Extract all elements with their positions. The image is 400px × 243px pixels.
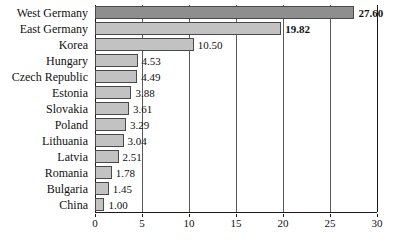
x-axis-ticks: 051015202530 [95, 214, 377, 234]
x-tick-label: 20 [278, 217, 289, 229]
bar-value-label: 3.29 [126, 117, 149, 133]
bar [95, 6, 354, 19]
category-label: Latvia [0, 149, 91, 165]
bar-value-label: 10.50 [194, 37, 223, 53]
bar [95, 38, 194, 51]
bar-value-label: 2.51 [119, 149, 142, 165]
bar-row: 3.29 [95, 117, 377, 133]
bar-row: 3.88 [95, 85, 377, 101]
bar [95, 70, 137, 83]
bar-value-label: 19.82 [281, 21, 310, 37]
bar [95, 182, 109, 195]
bar [95, 102, 129, 115]
category-label: Lithuania [0, 133, 91, 149]
bar-row: 1.78 [95, 165, 377, 181]
bar-value-label: 3.88 [131, 85, 154, 101]
x-tick-label: 5 [139, 217, 145, 229]
x-tick-label: 10 [184, 217, 195, 229]
x-tick-label: 30 [372, 217, 383, 229]
bar-value-label: 3.04 [124, 133, 147, 149]
category-label: West Germany [0, 5, 91, 21]
bar-value-label: 27.60 [354, 5, 383, 21]
category-label: Bulgaria [0, 181, 91, 197]
bar [95, 150, 119, 163]
category-label: Romania [0, 165, 91, 181]
bar-value-label: 1.78 [112, 165, 135, 181]
category-label: Poland [0, 117, 91, 133]
bar-row: 3.61 [95, 101, 377, 117]
bar-value-label: 1.45 [109, 181, 132, 197]
bar [95, 54, 138, 67]
bar-row: 1.45 [95, 181, 377, 197]
bar [95, 134, 124, 147]
bar-series: 27.6019.8210.504.534.493.883.613.293.042… [95, 5, 377, 213]
bar-row: 10.50 [95, 37, 377, 53]
bar [95, 86, 131, 99]
x-tick-label: 15 [231, 217, 242, 229]
category-label: Korea [0, 37, 91, 53]
bar [95, 166, 112, 179]
bar-row: 1.00 [95, 197, 377, 213]
category-label: Estonia [0, 85, 91, 101]
y-axis-category-labels: West GermanyEast GermanyKoreaHungaryCzec… [0, 5, 91, 213]
bar [95, 198, 104, 211]
category-label: Hungary [0, 53, 91, 69]
category-label: Czech Republic [0, 69, 91, 85]
bar-row: 4.53 [95, 53, 377, 69]
bar-value-label: 4.49 [137, 69, 160, 85]
bar-value-label: 3.61 [129, 101, 152, 117]
bar-row: 19.82 [95, 21, 377, 37]
x-tick-label: 0 [92, 217, 98, 229]
bar-row: 2.51 [95, 149, 377, 165]
bar-value-label: 1.00 [104, 197, 127, 213]
bar-value-label: 4.53 [138, 53, 161, 69]
category-label: Slovakia [0, 101, 91, 117]
bar-row: 27.60 [95, 5, 377, 21]
bar-row: 4.49 [95, 69, 377, 85]
category-label: East Germany [0, 21, 91, 37]
x-tick-label: 25 [325, 217, 336, 229]
bar-row: 3.04 [95, 133, 377, 149]
bar [95, 22, 281, 35]
bar-chart: West GermanyEast GermanyKoreaHungaryCzec… [0, 0, 400, 243]
gridline-30 [377, 5, 378, 212]
bar [95, 118, 126, 131]
category-label: China [0, 197, 91, 213]
